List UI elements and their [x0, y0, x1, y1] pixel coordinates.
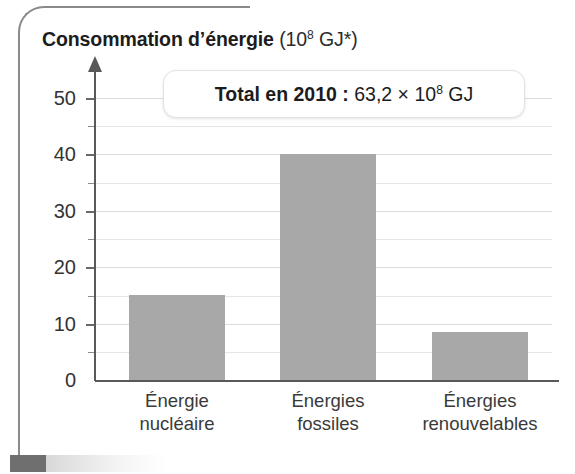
- ytick-label-30: 30: [32, 200, 76, 223]
- category-label-line-1: Énergie: [112, 389, 242, 412]
- bar-energies-fossiles: [280, 154, 376, 380]
- bar-energies-renouvelables: [432, 332, 528, 380]
- total-annotation-label: Total en 2010 :: [215, 83, 349, 105]
- category-label-energie-nucleaire: Énergie nucléaire: [112, 389, 242, 435]
- y-axis-line: [94, 68, 96, 381]
- ytick-label-0: 0: [32, 369, 76, 392]
- ytick-label-50: 50: [32, 87, 76, 110]
- category-label-line-2: nucléaire: [112, 412, 242, 435]
- category-label-energies-fossiles: Énergies fossiles: [263, 389, 393, 435]
- multiplication-sign-icon: ×: [398, 83, 409, 105]
- ytick-label-40: 40: [32, 143, 76, 166]
- chart-figure: Consommation d’énergie (108 GJ*) 50 40 3…: [0, 0, 575, 474]
- category-label-line-1: Énergies: [263, 389, 393, 412]
- ytick-label-10: 10: [32, 313, 76, 336]
- total-annotation-text: Total en 2010 : 63,2 × 108 GJ: [215, 83, 473, 106]
- category-label-line-2: renouvelables: [409, 412, 551, 435]
- bar-energie-nucleaire: [129, 295, 225, 380]
- category-label-line-2: fossiles: [263, 412, 393, 435]
- total-annotation-unit-base: 10: [414, 83, 436, 105]
- y-axis-arrow-icon: [88, 56, 102, 72]
- total-annotation-unit-exponent: 8: [436, 82, 443, 96]
- gridline-45: [95, 126, 552, 127]
- ytick-label-20: 20: [32, 256, 76, 279]
- total-annotation-unit-suffix: GJ: [443, 83, 473, 105]
- category-label-line-1: Énergies: [409, 389, 551, 412]
- total-annotation-callout: Total en 2010 : 63,2 × 108 GJ: [163, 70, 525, 118]
- total-annotation-value: 63,2: [354, 83, 392, 105]
- category-label-energies-renouvelables: Énergies renouvelables: [409, 389, 551, 435]
- x-axis-line: [95, 380, 559, 382]
